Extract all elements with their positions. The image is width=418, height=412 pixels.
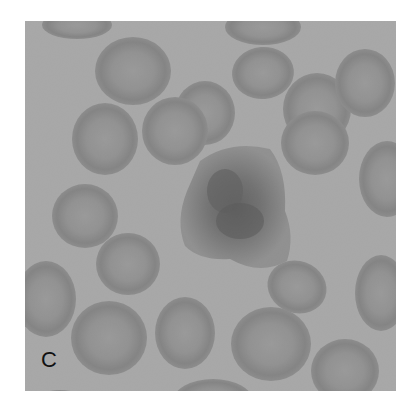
micrograph-image: C [25,21,396,391]
blood-smear-illustration [25,21,396,391]
panel-label: C [41,349,57,371]
